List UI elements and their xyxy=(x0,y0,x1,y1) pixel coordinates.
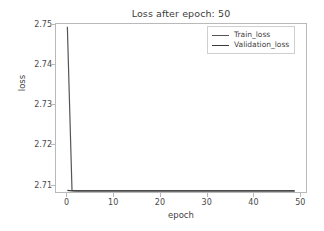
x-tick-mark xyxy=(207,193,208,197)
x-tick-label: 10 xyxy=(108,198,118,207)
x-tick-label: 40 xyxy=(248,198,258,207)
x-tick-mark xyxy=(253,193,254,197)
x-tick-label: 50 xyxy=(295,198,305,207)
y-tick-label: 2.71 xyxy=(12,180,52,189)
y-tick-label: 2.73 xyxy=(12,100,52,109)
x-tick-mark xyxy=(300,193,301,197)
loss-chart-figure: Loss after epoch: 50 loss epoch 2.712.72… xyxy=(0,0,324,231)
x-tick-mark xyxy=(113,193,114,197)
legend-item: Validation_loss xyxy=(212,40,289,50)
chart-title: Loss after epoch: 50 xyxy=(55,8,307,19)
x-tick-mark xyxy=(160,193,161,197)
x-tick-label: 30 xyxy=(202,198,212,207)
x-tick-label: 0 xyxy=(64,198,69,207)
legend-swatch-train-loss xyxy=(212,35,229,36)
legend-swatch-validation-loss xyxy=(212,45,229,46)
x-tick-label: 20 xyxy=(155,198,165,207)
legend-item: Train_loss xyxy=(212,30,289,40)
y-tick-label: 2.75 xyxy=(12,19,52,28)
chart-legend: Train_loss Validation_loss xyxy=(207,26,295,54)
legend-label-validation-loss: Validation_loss xyxy=(234,40,289,50)
x-tick-mark xyxy=(66,193,67,197)
x-axis-label: epoch xyxy=(55,210,307,220)
y-tick-label: 2.74 xyxy=(12,59,52,68)
y-tick-label: 2.72 xyxy=(12,140,52,149)
legend-label-train-loss: Train_loss xyxy=(234,30,270,40)
